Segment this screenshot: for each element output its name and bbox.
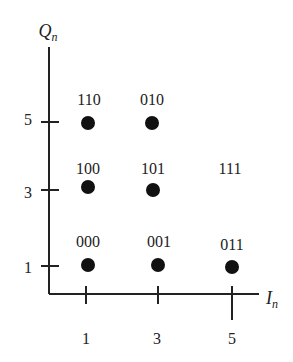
label-000: 000 [76, 233, 100, 251]
point-000 [81, 258, 95, 272]
point-010 [145, 116, 159, 130]
y-axis-label: Qn [39, 21, 58, 46]
label-001: 001 [147, 233, 171, 251]
y-tick-label-1: 1 [24, 259, 32, 277]
point-101 [146, 183, 160, 197]
point-100 [81, 180, 95, 194]
label-010: 010 [140, 91, 164, 109]
label-111: 111 [219, 160, 242, 178]
x-tick-label-3: 3 [153, 330, 161, 348]
y-tick-label-3: 3 [24, 184, 32, 202]
point-011 [225, 260, 239, 274]
label-101: 101 [141, 160, 165, 178]
label-110: 110 [77, 91, 100, 109]
x-tick-label-1: 1 [82, 330, 90, 348]
point-110 [81, 116, 95, 130]
y-tick-label-5: 5 [24, 111, 32, 129]
label-100: 100 [76, 160, 100, 178]
x-tick-label-5: 5 [228, 330, 236, 348]
x-axis-label: In [266, 288, 278, 313]
label-011: 011 [220, 236, 243, 254]
point-001 [151, 258, 165, 272]
plot-canvas [0, 0, 293, 362]
